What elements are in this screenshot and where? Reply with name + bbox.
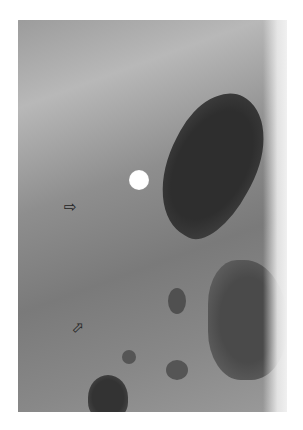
gas-lucency: [122, 350, 136, 364]
gas-lucency: [168, 288, 186, 314]
gas-lucency: [88, 375, 128, 412]
spine-shadow: [263, 20, 287, 412]
radiopaque-marker: [129, 170, 149, 190]
open-arrow-icon: ⇨: [64, 200, 77, 215]
radiograph-image: ⇨ ⇨: [18, 20, 287, 412]
gas-lucency: [166, 360, 188, 380]
